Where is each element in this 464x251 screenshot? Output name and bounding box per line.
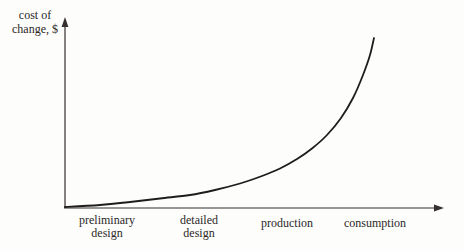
- y-axis-label-line2: change, $: [6, 22, 64, 36]
- y-axis-label: cost of change, $: [6, 8, 64, 36]
- x-axis-label-consumption: consumption: [325, 217, 425, 230]
- y-axis-label-line1: cost of: [6, 8, 64, 22]
- x-axis-label-preliminary-design: preliminary design: [72, 214, 142, 240]
- chart-canvas: [0, 0, 464, 251]
- cost-of-change-figure: cost of change, $ preliminary design det…: [0, 0, 464, 251]
- cost-curve: [65, 38, 374, 207]
- x-axis-label-production: production: [242, 217, 332, 230]
- x-axis-label-detailed-design: detailed design: [169, 214, 229, 240]
- x-axis-arrowhead-icon: [434, 205, 444, 212]
